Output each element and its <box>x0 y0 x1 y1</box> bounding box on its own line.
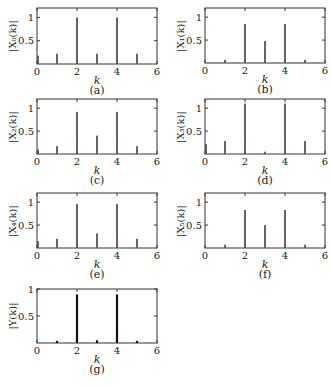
x-tick-label: 2 <box>74 345 80 356</box>
bar-k2 <box>76 294 78 343</box>
plot-area: 02460.51 <box>0 0 331 386</box>
subplot-caption: (g) <box>77 363 117 376</box>
x-tick-label: 4 <box>114 345 120 356</box>
bar-k3 <box>96 340 98 343</box>
x-tick-label: 0 <box>34 345 40 356</box>
y-tick-label: 1 <box>28 284 34 295</box>
subplot-g: 02460.51|Y(k)|k(g) <box>0 0 331 386</box>
y-tick-label: 0.5 <box>18 311 34 322</box>
axes-frame <box>37 289 157 343</box>
x-tick-label: 6 <box>154 345 160 356</box>
bar-k4 <box>116 294 118 343</box>
bar-k5 <box>136 341 138 343</box>
y-axis-label: |Y(k)| <box>7 286 19 346</box>
bar-k1 <box>56 341 58 343</box>
